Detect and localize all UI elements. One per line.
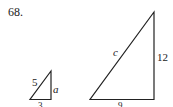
triangles-diagram: [0, 0, 173, 107]
large-base-label: 9: [118, 100, 123, 107]
large-hypotenuse-label: c: [113, 47, 118, 58]
large-vertical-label: 12: [157, 52, 168, 63]
small-base-label: 3: [38, 100, 43, 107]
large-triangle: [90, 12, 154, 100]
small-hypotenuse-label: 5: [32, 77, 38, 88]
small-vertical-label: a: [53, 84, 59, 95]
